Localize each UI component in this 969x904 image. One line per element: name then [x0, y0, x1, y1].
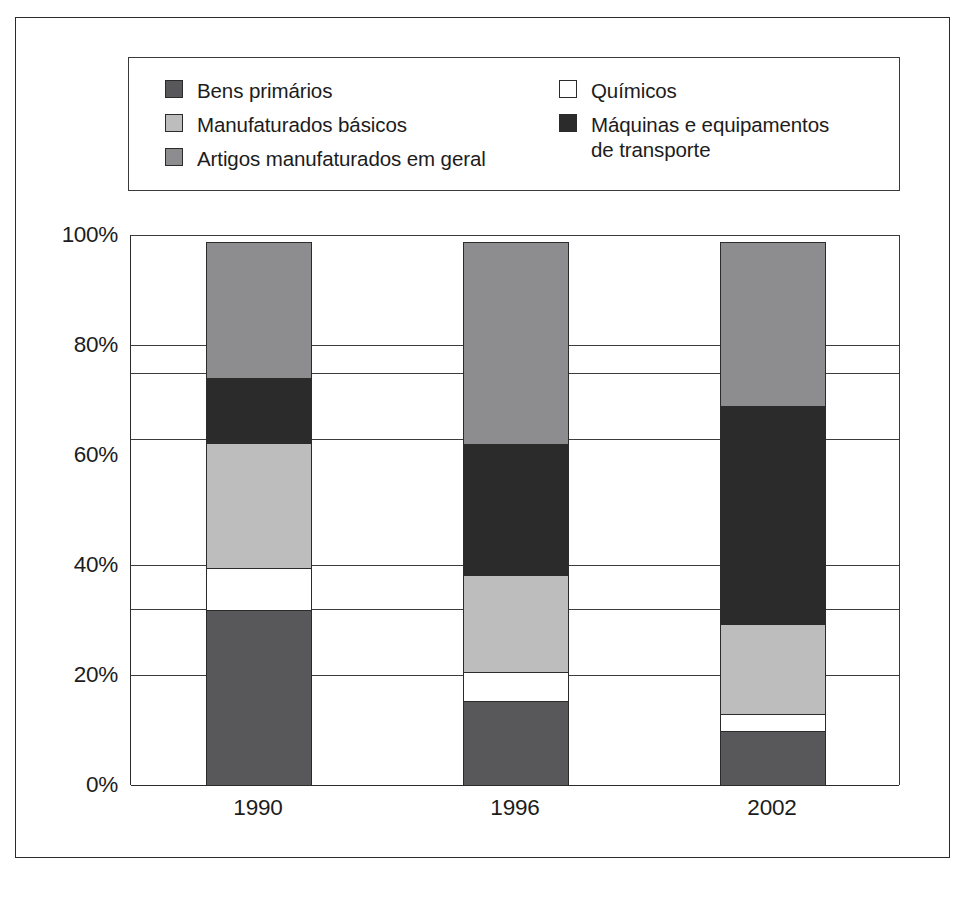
y-tick-60pct: 60% — [26, 442, 118, 468]
x-axis-tick-labels: 199019962002 — [130, 795, 900, 835]
bar-segment[interactable] — [463, 242, 569, 446]
bar-segment[interactable] — [720, 242, 826, 407]
legend-swatch-manufaturados-basicos — [165, 114, 183, 132]
y-tick-100pct: 100% — [26, 222, 118, 248]
bar-segment[interactable] — [206, 378, 312, 444]
legend-item-bens-primarios[interactable]: Bens primários — [165, 78, 486, 103]
legend-label-artigos-manufaturados: Artigos manufaturados em geral — [197, 146, 486, 171]
legend-column-left: Bens primários Manufaturados básicos Art… — [165, 78, 486, 180]
bar-2002[interactable] — [720, 242, 826, 785]
bar-segment[interactable] — [206, 242, 312, 380]
figure-canvas: Bens primários Manufaturados básicos Art… — [0, 0, 969, 904]
x-tick-1990: 1990 — [178, 795, 338, 821]
bar-segment[interactable] — [206, 568, 312, 612]
y-tick-40pct: 40% — [26, 552, 118, 578]
bar-segment[interactable] — [720, 406, 826, 626]
legend-item-maquinas-equipamentos[interactable]: Máquinas e equipamentos de transporte — [559, 112, 829, 162]
bar-segment[interactable] — [206, 610, 312, 786]
y-tick-20pct: 20% — [26, 662, 118, 688]
legend-label-bens-primarios: Bens primários — [197, 78, 332, 103]
bar-segment[interactable] — [720, 714, 826, 733]
chart-legend: Bens primários Manufaturados básicos Art… — [128, 57, 900, 191]
legend-item-quimicos[interactable]: Químicos — [559, 78, 829, 103]
bar-segment[interactable] — [463, 672, 569, 702]
legend-item-manufaturados-basicos[interactable]: Manufaturados básicos — [165, 112, 486, 137]
legend-label-maquinas-equipamentos: Máquinas e equipamentos de transporte — [591, 112, 829, 162]
bar-1996[interactable] — [463, 242, 569, 785]
legend-item-artigos-manufaturados[interactable]: Artigos manufaturados em geral — [165, 146, 486, 171]
legend-label-manufaturados-basicos: Manufaturados básicos — [197, 112, 407, 137]
legend-swatch-bens-primarios — [165, 80, 183, 98]
y-tick-80pct: 80% — [26, 332, 118, 358]
plot-area — [130, 235, 900, 785]
bar-segment[interactable] — [463, 701, 569, 786]
bar-segment[interactable] — [463, 444, 569, 576]
bar-segment[interactable] — [720, 731, 826, 786]
x-tick-2002: 2002 — [692, 795, 852, 821]
legend-column-right: Químicos Máquinas e equipamentos de tran… — [559, 78, 829, 171]
bar-1990[interactable] — [206, 242, 312, 785]
y-tick-0pct: 0% — [26, 772, 118, 798]
bar-segment[interactable] — [463, 575, 569, 674]
bar-segment[interactable] — [206, 443, 312, 570]
legend-swatch-maquinas-equipamentos — [559, 114, 577, 132]
legend-swatch-quimicos — [559, 80, 577, 98]
y-axis-tick-labels: 0%20%40%60%80%100% — [18, 235, 118, 785]
bar-segment[interactable] — [720, 624, 826, 715]
plot-top-border — [131, 235, 899, 236]
x-tick-1996: 1996 — [435, 795, 595, 821]
legend-swatch-artigos-manufaturados — [165, 148, 183, 166]
legend-label-quimicos: Químicos — [591, 78, 677, 103]
